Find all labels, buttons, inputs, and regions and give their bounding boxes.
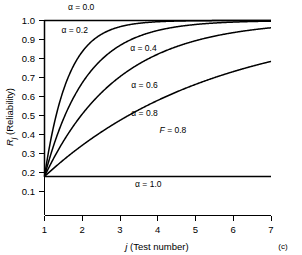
curve-label-alpha-0.8: α = 0.8	[131, 108, 158, 118]
panel-label: (c)	[278, 242, 288, 251]
curve-label-alpha-0.4: α = 0.4	[130, 43, 157, 53]
x-axis-title: j (Test number)	[123, 241, 188, 252]
y-tick-label: 0.1	[22, 186, 35, 197]
chart-canvas: 1.0 0.9 0.8 0.7 0.6 0.5 0.4 0.3 0.2 0.1 …	[0, 0, 302, 255]
y-tick-label: 0.3	[22, 148, 35, 159]
y-axis-title: Rj (Reliability)	[4, 88, 18, 146]
y-tick-label: 0.9	[22, 34, 35, 45]
y-tick-label: 0.8	[22, 53, 35, 64]
x-tick-label: 7	[268, 224, 273, 235]
reliability-growth-figure: 1.0 0.9 0.8 0.7 0.6 0.5 0.4 0.3 0.2 0.1 …	[0, 0, 302, 255]
curve-label-alpha-0.2: α = 0.2	[62, 25, 89, 35]
curve-alpha-0.6	[45, 28, 272, 177]
data-curves-group	[45, 21, 272, 177]
x-axis-rest: (Test number)	[127, 241, 188, 252]
curve-label-alpha-0.0: α = 0.0	[68, 2, 95, 12]
x-tick-label: 2	[80, 224, 85, 235]
curve-alpha-0.2	[45, 21, 272, 177]
y-tick-label: 1.0	[22, 15, 35, 26]
y-tick-marks	[39, 21, 45, 192]
curve-label-alpha-0.6: α = 0.6	[131, 80, 158, 90]
y-tick-label: 0.2	[22, 167, 35, 178]
x-tick-label: 4	[155, 224, 160, 235]
x-tick-marks	[45, 216, 272, 222]
curve-alpha-0.0	[45, 21, 272, 177]
y-axis-rest: (Reliability)	[4, 88, 15, 138]
x-tick-labels: 1 2 3 4 5 6 7	[42, 224, 274, 235]
x-tick-label: 3	[117, 224, 122, 235]
annotation-F-rest: = 0.8	[165, 125, 187, 135]
x-tick-label: 1	[42, 224, 47, 235]
annotation-F-value: F = 0.8	[160, 125, 187, 135]
y-tick-labels: 1.0 0.9 0.8 0.7 0.6 0.5 0.4 0.3 0.2 0.1	[22, 15, 35, 197]
curve-label-alpha-1.0: α = 1.0	[135, 179, 162, 189]
x-tick-label: 6	[231, 224, 236, 235]
curve-alpha-0.4	[45, 21, 272, 176]
y-tick-label: 0.6	[22, 91, 35, 102]
y-tick-label: 0.4	[22, 129, 35, 140]
y-tick-label: 0.5	[22, 110, 35, 121]
y-tick-label: 0.7	[22, 72, 35, 83]
x-tick-label: 5	[193, 224, 198, 235]
